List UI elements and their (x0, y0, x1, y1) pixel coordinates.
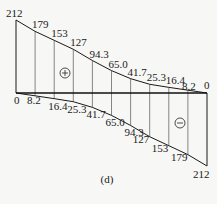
lower-value-label: 127 (133, 133, 150, 145)
upper-value-label: 41.7 (128, 66, 148, 78)
lower-value-label: 179 (171, 151, 188, 163)
upper-value-label: 179 (32, 18, 49, 30)
upper-value-label: 127 (70, 36, 87, 48)
lower-value-label: 41.7 (86, 108, 106, 120)
force-diagram: 21217915312794.365.041.725.316.48.20 08.… (0, 0, 217, 204)
lower-value-label: 65.0 (106, 116, 126, 128)
lower-value-label: 25.3 (67, 103, 87, 115)
negative-sign-icon (175, 118, 185, 128)
lower-value-label: 8.2 (27, 94, 41, 106)
upper-labels: 21217915312794.365.041.725.316.48.20 (6, 7, 210, 92)
upper-value-label: 153 (51, 27, 68, 39)
lower-value-label: 0 (14, 94, 20, 106)
lower-value-label: 153 (152, 142, 169, 154)
upper-value-label: 25.3 (147, 71, 167, 83)
lower-value-label: 212 (193, 168, 210, 180)
figure-caption: (d) (101, 173, 114, 186)
positive-sign-icon (60, 68, 70, 78)
lower-value-label: 16.4 (48, 100, 68, 112)
upper-value-label: 0 (204, 79, 210, 91)
upper-value-label: 8.2 (182, 80, 196, 92)
upper-value-label: 65.0 (109, 58, 129, 70)
upper-value-label: 94.3 (89, 48, 109, 60)
upper-value-label: 212 (6, 7, 23, 19)
